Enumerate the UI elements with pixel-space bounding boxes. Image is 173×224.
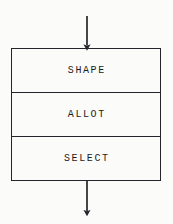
process-row-allot: ALLOT bbox=[12, 92, 160, 136]
process-row-label: SELECT bbox=[62, 154, 109, 164]
process-row-select: SELECT bbox=[12, 136, 160, 180]
three-section-process-box: SHAPE ALLOT SELECT bbox=[11, 48, 161, 181]
flowchart-diagram: SHAPE ALLOT SELECT bbox=[0, 0, 173, 224]
process-row-shape: SHAPE bbox=[12, 49, 160, 92]
process-row-label: SHAPE bbox=[66, 66, 106, 76]
process-row-label: ALLOT bbox=[66, 110, 106, 120]
